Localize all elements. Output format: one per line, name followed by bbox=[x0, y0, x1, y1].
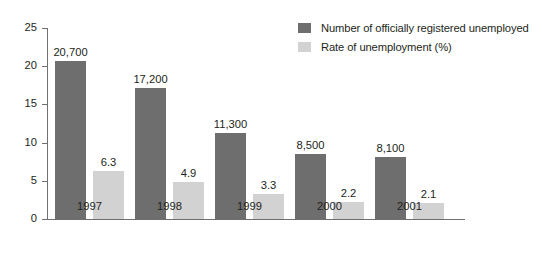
bar-group: 8,1002.1 bbox=[375, 28, 444, 219]
y-axis-tick-mark bbox=[42, 181, 47, 182]
bar-value-label: 2.2 bbox=[341, 187, 357, 199]
y-axis-tick-mark bbox=[42, 28, 47, 29]
y-axis-tick-label: 20 bbox=[9, 60, 37, 71]
y-axis-tick-label: 0 bbox=[9, 213, 37, 224]
bar-group: 11,3003.3 bbox=[215, 28, 284, 219]
y-axis-tick-label: 15 bbox=[9, 98, 37, 109]
bar-group: 20,7006.3 bbox=[55, 28, 124, 219]
x-axis-line bbox=[47, 219, 465, 220]
bar-value-label: 8,100 bbox=[377, 142, 405, 154]
bar-value-label: 2.1 bbox=[421, 188, 437, 200]
bar-value-label: 17,200 bbox=[133, 73, 167, 85]
x-axis-label-1999: 1999 bbox=[215, 200, 284, 212]
y-axis-tick-label: 10 bbox=[9, 137, 37, 148]
y-axis-tick-mark bbox=[42, 143, 47, 144]
bar-value-label: 3.3 bbox=[261, 179, 277, 191]
y-axis-tick-mark bbox=[42, 219, 47, 220]
y-axis-tick-label: 25 bbox=[9, 22, 37, 33]
bar-value-label: 11,300 bbox=[214, 118, 247, 130]
x-axis-label-2001: 2001 bbox=[375, 200, 444, 212]
y-axis-line bbox=[47, 28, 48, 220]
y-axis-tick-mark bbox=[42, 104, 47, 105]
bar-value-label: 20,700 bbox=[53, 46, 87, 58]
bar-group: 8,5002.2 bbox=[295, 28, 364, 219]
bar-1997-series-1: 20,700 bbox=[55, 61, 86, 219]
bar-group: 17,2004.9 bbox=[135, 28, 204, 219]
y-axis-tick-mark bbox=[42, 66, 47, 67]
plot-area: 2520151050 20,7006.317,2004.911,3003.38,… bbox=[47, 28, 465, 220]
bar-value-label: 6.3 bbox=[101, 156, 117, 168]
x-axis-label-2000: 2000 bbox=[295, 200, 364, 212]
bar-value-label: 4.9 bbox=[181, 167, 197, 179]
bar-value-label: 8,500 bbox=[297, 139, 325, 151]
x-axis-label-1998: 1998 bbox=[135, 200, 204, 212]
y-axis-tick-label: 5 bbox=[9, 175, 37, 186]
x-axis-label-1997: 1997 bbox=[55, 200, 124, 212]
unemployment-bar-chart: Number of officially registered unemploy… bbox=[0, 0, 542, 276]
